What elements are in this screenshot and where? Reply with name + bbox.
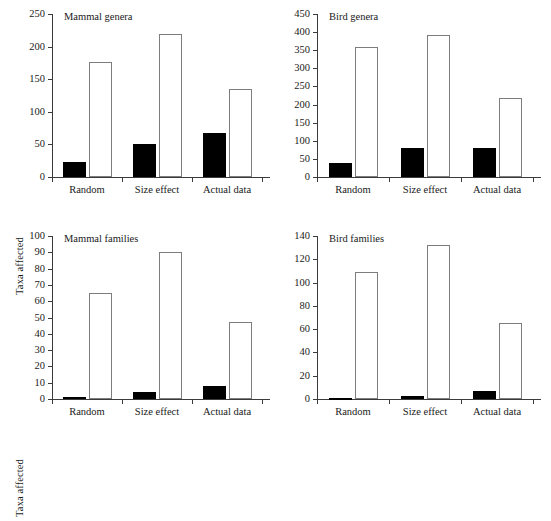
x-tick-mark bbox=[461, 178, 462, 182]
bar-open bbox=[159, 252, 182, 399]
x-tick-mark bbox=[317, 178, 318, 182]
x-axis-line bbox=[317, 177, 541, 178]
x-tick-mark bbox=[192, 400, 193, 404]
y-tick-label: 50 bbox=[35, 313, 46, 323]
y-tick-mark bbox=[48, 269, 52, 270]
chart-title: Bird families bbox=[329, 233, 384, 244]
y-tick-label: 100 bbox=[294, 136, 310, 146]
y-tick-label: 450 bbox=[294, 9, 310, 19]
bar-open bbox=[89, 293, 112, 399]
y-tick-mark bbox=[313, 159, 317, 160]
chart-panel-top-right: 050100150200250300350400450Bird generaRa… bbox=[275, 0, 551, 222]
y-tick-mark bbox=[313, 376, 317, 377]
y-tick-mark bbox=[313, 123, 317, 124]
x-tick-mark bbox=[389, 400, 390, 404]
y-tick-label: 150 bbox=[294, 118, 310, 128]
y-tick-label: 250 bbox=[29, 9, 45, 19]
bar-filled bbox=[473, 391, 496, 399]
bar-open bbox=[229, 89, 252, 177]
chart-title: Mammal genera bbox=[64, 11, 133, 22]
y-tick-mark bbox=[313, 14, 317, 15]
y-tick-mark bbox=[313, 50, 317, 51]
y-tick-label: 50 bbox=[300, 154, 311, 164]
x-tick-mark bbox=[262, 400, 263, 404]
y-tick-label: 0 bbox=[40, 394, 45, 404]
bar-filled bbox=[473, 148, 496, 177]
y-tick-label: 200 bbox=[294, 100, 310, 110]
y-tick-mark bbox=[48, 112, 52, 113]
bar-filled bbox=[401, 148, 424, 177]
y-tick-mark bbox=[48, 350, 52, 351]
y-tick-mark bbox=[48, 144, 52, 145]
y-tick-mark bbox=[313, 236, 317, 237]
y-axis-title: Taxa affected bbox=[14, 403, 28, 521]
bar-open bbox=[355, 47, 378, 177]
y-tick-label: 20 bbox=[300, 371, 311, 381]
y-tick-label: 120 bbox=[294, 254, 310, 264]
y-tick-label: 0 bbox=[305, 172, 310, 182]
y-tick-mark bbox=[48, 301, 52, 302]
y-tick-label: 70 bbox=[35, 280, 46, 290]
y-axis-line bbox=[317, 236, 318, 400]
bar-filled bbox=[133, 392, 156, 399]
y-tick-label: 30 bbox=[35, 345, 46, 355]
x-category-label: Actual data bbox=[461, 406, 533, 417]
y-tick-mark bbox=[313, 352, 317, 353]
x-category-label: Actual data bbox=[192, 184, 262, 195]
x-category-label: Size effect bbox=[389, 184, 461, 195]
x-tick-mark bbox=[52, 178, 53, 182]
y-axis-line bbox=[52, 236, 53, 400]
y-tick-mark bbox=[313, 86, 317, 87]
y-tick-label: 80 bbox=[35, 264, 46, 274]
y-tick-label: 0 bbox=[305, 394, 310, 404]
y-tick-mark bbox=[48, 252, 52, 253]
chart-panel-top-left: 050100150200250Taxa affectedMammal gener… bbox=[0, 0, 275, 222]
y-tick-mark bbox=[48, 236, 52, 237]
y-tick-label: 60 bbox=[35, 296, 46, 306]
y-tick-mark bbox=[313, 329, 317, 330]
y-tick-label: 200 bbox=[29, 42, 45, 52]
x-tick-mark bbox=[122, 400, 123, 404]
x-tick-mark bbox=[192, 178, 193, 182]
y-tick-label: 40 bbox=[35, 329, 46, 339]
y-tick-label: 10 bbox=[35, 378, 46, 388]
y-tick-label: 20 bbox=[35, 361, 46, 371]
bar-filled bbox=[401, 396, 424, 399]
bar-filled bbox=[63, 162, 86, 177]
y-tick-mark bbox=[313, 259, 317, 260]
y-tick-mark bbox=[48, 285, 52, 286]
x-tick-mark bbox=[262, 178, 263, 182]
x-category-label: Random bbox=[317, 406, 389, 417]
y-tick-label: 350 bbox=[294, 45, 310, 55]
bar-open bbox=[159, 34, 182, 177]
y-tick-mark bbox=[313, 306, 317, 307]
x-axis-line bbox=[52, 177, 270, 178]
x-category-label: Size effect bbox=[389, 406, 461, 417]
bar-filled bbox=[203, 386, 226, 399]
x-tick-mark bbox=[461, 400, 462, 404]
y-tick-label: 150 bbox=[29, 74, 45, 84]
chart-title: Bird genera bbox=[329, 11, 378, 22]
chart-title: Mammal families bbox=[64, 233, 138, 244]
bar-filled bbox=[329, 163, 352, 177]
y-tick-mark bbox=[48, 14, 52, 15]
x-tick-mark bbox=[122, 178, 123, 182]
bar-filled bbox=[63, 397, 86, 399]
y-tick-mark bbox=[313, 105, 317, 106]
x-tick-mark bbox=[52, 400, 53, 404]
chart-panel-bottom-right: 020406080100120140Bird familiesRandomSiz… bbox=[275, 222, 551, 444]
y-tick-label: 300 bbox=[294, 63, 310, 73]
y-tick-label: 140 bbox=[294, 231, 310, 241]
y-tick-mark bbox=[48, 366, 52, 367]
y-tick-label: 50 bbox=[35, 139, 46, 149]
x-category-label: Actual data bbox=[461, 184, 533, 195]
y-tick-label: 90 bbox=[35, 247, 46, 257]
x-tick-mark bbox=[533, 400, 534, 404]
bar-open bbox=[499, 323, 522, 399]
bar-open bbox=[229, 322, 252, 399]
chart-panel-bottom-left: 0102030405060708090100Taxa affectedMamma… bbox=[0, 222, 275, 444]
x-category-label: Size effect bbox=[122, 184, 192, 195]
y-tick-label: 60 bbox=[300, 324, 311, 334]
y-tick-label: 0 bbox=[40, 172, 45, 182]
